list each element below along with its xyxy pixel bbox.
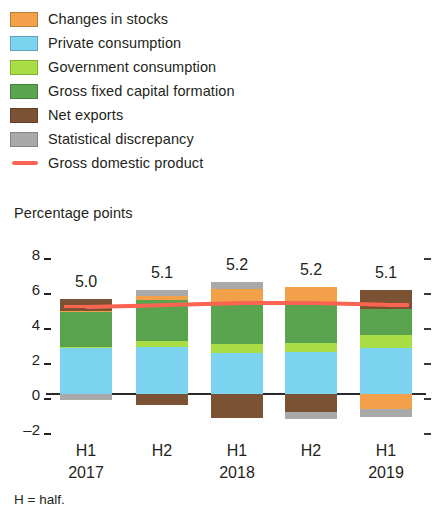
legend-item-label: Gross domestic product: [48, 155, 203, 171]
x-axis-label: H2: [301, 440, 321, 462]
y-axis-tick-mark: [44, 363, 51, 365]
x-axis-label: H2: [152, 440, 172, 462]
bar-segment[interactable]: [285, 343, 337, 352]
x-axis-period-label: H1: [219, 440, 255, 462]
x-axis-period-label: H1: [68, 440, 104, 462]
legend-item-label: Gross fixed capital formation: [48, 83, 235, 99]
bar-segment[interactable]: [285, 394, 337, 412]
y-axis-tick-mark-right: [424, 328, 431, 330]
legend-swatch-icon: [10, 12, 38, 27]
y-axis-tick-mark: [44, 398, 51, 400]
bar-segment[interactable]: [211, 344, 263, 353]
footnote: H = half.: [14, 492, 65, 507]
x-axis-year-label: 2017: [68, 462, 104, 484]
legend-item[interactable]: Changes in stocks: [0, 7, 437, 31]
bar-segment[interactable]: [285, 352, 337, 394]
bar-value-label: 5.2: [226, 256, 248, 274]
x-axis-label: H12019: [368, 440, 404, 484]
bar-segment[interactable]: [211, 394, 263, 418]
legend-swatch-icon: [10, 36, 38, 51]
legend-swatch-icon: [10, 60, 38, 75]
legend-swatch-cell: [0, 12, 48, 27]
gdp-line-segment: [237, 301, 312, 305]
legend-item[interactable]: Statistical discrepancy: [0, 127, 437, 151]
legend-item[interactable]: Private consumption: [0, 31, 437, 55]
y-axis-tick-label: 4: [14, 316, 40, 333]
gdp-line-segment: [386, 303, 409, 307]
stacked-bar[interactable]: [60, 230, 112, 440]
y-axis-tick-mark-right: [424, 293, 431, 295]
chart-legend: Changes in stocksPrivate consumptionGove…: [0, 0, 437, 175]
y-axis-tick-mark-right: [424, 398, 431, 400]
y-axis-tick-mark-right: [424, 258, 431, 260]
bar-segment[interactable]: [60, 311, 112, 312]
bar-value-label: 5.1: [375, 264, 397, 282]
bar-segment[interactable]: [360, 348, 412, 394]
bar-segment[interactable]: [136, 394, 188, 405]
bar-segment[interactable]: [285, 303, 337, 343]
bar-segment[interactable]: [285, 412, 337, 418]
bar-segment[interactable]: [360, 309, 412, 335]
bar-value-label: 5.0: [75, 273, 97, 291]
y-axis-tick-label: 2: [14, 351, 40, 368]
legend-item-label: Private consumption: [48, 35, 181, 51]
legend-swatch-cell: [0, 84, 48, 99]
legend-swatch-cell: [0, 108, 48, 123]
legend-item[interactable]: Gross fixed capital formation: [0, 79, 437, 103]
bar-segment[interactable]: [360, 335, 412, 347]
x-axis-label: H12018: [219, 440, 255, 484]
y-axis-tick-mark: [44, 293, 51, 295]
bar-segment[interactable]: [360, 394, 412, 409]
x-axis-period-label: H2: [152, 440, 172, 462]
bar-segment[interactable]: [136, 341, 188, 347]
bar-segment[interactable]: [136, 296, 188, 300]
bar-segment[interactable]: [211, 303, 263, 344]
y-axis-tick-label: 8: [14, 246, 40, 263]
legend-swatch-cell: [0, 36, 48, 51]
legend-swatch-icon: [10, 84, 38, 99]
bar-segment[interactable]: [211, 353, 263, 394]
legend-swatch-icon: [10, 108, 38, 123]
y-axis-tick-mark: [44, 328, 51, 330]
legend-item-label: Government consumption: [48, 59, 216, 75]
legend-item[interactable]: Net exports: [0, 103, 437, 127]
bar-value-label: 5.2: [300, 261, 322, 279]
legend-item[interactable]: Gross domestic product: [0, 151, 437, 175]
x-axis-period-label: H2: [301, 440, 321, 462]
y-axis-tick-label: 0: [14, 386, 40, 403]
legend-swatch-cell: [0, 60, 48, 75]
legend-line-icon: [12, 161, 38, 165]
y-axis-tick-mark-right: [424, 363, 431, 365]
x-axis-period-label: H1: [368, 440, 404, 462]
stacked-bar[interactable]: [136, 230, 188, 440]
plot-area: 86420–25.05.15.25.25.1: [0, 230, 437, 440]
bar-segment[interactable]: [60, 347, 112, 348]
legend-item-label: Statistical discrepancy: [48, 131, 194, 147]
y-axis-tick-mark: [44, 433, 51, 435]
x-axis-year-label: 2018: [219, 462, 255, 484]
x-axis-year-label: 2019: [368, 462, 404, 484]
bar-segment[interactable]: [60, 348, 112, 394]
legend-swatch-cell: [0, 161, 48, 165]
legend-item-label: Changes in stocks: [48, 11, 168, 27]
x-axis-labels: H12017H2H12018H2H12019: [0, 440, 437, 492]
bar-segment[interactable]: [136, 347, 188, 394]
legend-item[interactable]: Government consumption: [0, 55, 437, 79]
y-axis-title: Percentage points: [14, 205, 133, 221]
y-axis-tick-mark-right: [424, 433, 431, 435]
legend-swatch-icon: [10, 132, 38, 147]
bar-segment[interactable]: [60, 312, 112, 347]
stacked-bar[interactable]: [360, 230, 412, 440]
legend-item-label: Net exports: [48, 107, 123, 123]
y-axis-tick-mark: [44, 258, 51, 260]
x-axis-label: H12017: [68, 440, 104, 484]
bar-segment[interactable]: [211, 282, 263, 289]
bar-segment[interactable]: [60, 394, 112, 400]
gdp-line-segment: [64, 305, 87, 309]
y-axis-tick-label: –2: [14, 421, 40, 438]
legend-swatch-cell: [0, 132, 48, 147]
bar-value-label: 5.1: [151, 264, 173, 282]
bar-segment[interactable]: [360, 409, 412, 417]
y-axis-tick-label: 6: [14, 281, 40, 298]
bar-segment[interactable]: [136, 290, 188, 296]
